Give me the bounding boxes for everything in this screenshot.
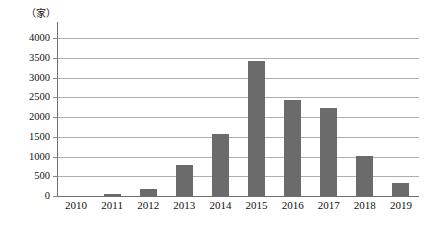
bar	[104, 194, 121, 196]
x-axis-tick-label: 2014	[200, 199, 240, 212]
y-axis-tick-mark	[53, 58, 58, 59]
y-axis-tick-mark	[53, 157, 58, 158]
y-axis-tick-mark	[53, 38, 58, 39]
y-axis-tick-mark	[53, 117, 58, 118]
y-axis-tick-mark	[53, 196, 58, 197]
y-axis-tick-label: 4000	[4, 33, 50, 43]
x-axis-tick-label: 2013	[164, 199, 204, 212]
bar	[284, 100, 301, 196]
x-axis-tick-label: 2010	[56, 199, 96, 212]
bar-chart: （家） 40003500300025002000150010005000 201…	[0, 0, 426, 229]
y-axis-tick-label: 500	[4, 171, 50, 181]
y-axis-tick-label: 1500	[4, 132, 50, 142]
x-axis-tick-label: 2016	[273, 199, 313, 212]
y-axis-tick-mark	[53, 137, 58, 138]
gridline	[58, 117, 419, 118]
bar	[140, 189, 157, 197]
y-axis-tick-labels: 40003500300025002000150010005000	[0, 0, 50, 229]
y-axis-tick-label: 1000	[4, 152, 50, 162]
gridline	[58, 78, 419, 79]
bar	[248, 61, 265, 196]
x-axis-tick-label: 2012	[128, 199, 168, 212]
y-axis-tick-label: 2000	[4, 112, 50, 122]
y-axis-tick-label: 3500	[4, 53, 50, 63]
bar	[176, 165, 193, 196]
y-axis-tick-label: 0	[4, 191, 50, 201]
plot-area	[58, 38, 419, 196]
x-axis-tick-label: 2018	[345, 199, 385, 212]
gridline	[58, 38, 419, 39]
x-axis-tick-label: 2019	[381, 199, 421, 212]
bar	[320, 108, 337, 196]
x-axis-tick-label: 2017	[309, 199, 349, 212]
axis-baseline	[58, 196, 419, 197]
bar	[356, 156, 373, 196]
gridline	[58, 137, 419, 138]
x-axis-tick-label: 2015	[237, 199, 277, 212]
bar	[212, 134, 229, 196]
y-axis-tick-label: 3000	[4, 73, 50, 83]
gridline	[58, 97, 419, 98]
x-axis-tick-label: 2011	[92, 199, 132, 212]
y-axis-tick-mark	[53, 97, 58, 98]
gridline	[58, 58, 419, 59]
y-axis-tick-label: 2500	[4, 92, 50, 102]
y-axis-tick-mark	[53, 176, 58, 177]
bar	[392, 183, 409, 196]
x-axis-tick-labels: 2010201120122013201420152016201720182019	[58, 199, 419, 219]
y-axis-tick-mark	[53, 78, 58, 79]
